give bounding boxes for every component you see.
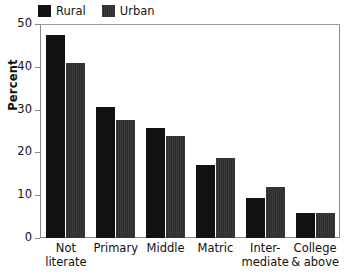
bar-rural-0 [46,35,65,238]
legend-label-urban: Urban [120,5,155,17]
y-tick-50: 50 [0,24,40,25]
y-tick-label-20: 20 [17,145,32,158]
bar-urban-4 [266,187,285,238]
y-tick-20: 20 [0,152,40,153]
bar-rural-4 [246,198,265,238]
y-tick-mark-30 [35,110,40,111]
y-tick-0: 0 [0,238,40,239]
y-tick-mark-50 [35,24,40,25]
bar-rural-5 [296,213,315,238]
bar-rural-3 [196,165,215,238]
x-axis-label-5: College & above [284,241,346,269]
legend-entry-urban[interactable]: Urban [102,5,155,17]
y-tick-label-50: 50 [17,17,32,30]
legend-swatch-urban [102,5,115,17]
plot-area [41,24,340,238]
bar-urban-1 [116,120,135,238]
legend-swatch-rural [38,5,51,17]
bar-urban-0 [66,63,85,238]
y-tick-30: 30 [0,110,40,111]
bar-urban-3 [216,158,235,238]
y-tick-mark-10 [35,195,40,196]
bar-rural-1 [96,107,115,238]
y-tick-label-10: 10 [17,188,32,201]
bar-urban-5 [316,213,335,238]
chart-legend: RuralUrban [38,3,155,19]
y-tick-mark-20 [35,152,40,153]
y-tick-40: 40 [0,67,40,68]
y-tick-10: 10 [0,195,40,196]
legend-entry-rural[interactable]: Rural [38,5,86,17]
bar-rural-2 [146,128,165,238]
y-tick-mark-40 [35,67,40,68]
bar-chart: RuralUrban Percent 01020304050 Not liter… [0,0,346,278]
y-tick-label-30: 30 [17,103,32,116]
bar-urban-2 [166,136,185,238]
y-axis-label: Percent [6,30,20,140]
y-tick-label-0: 0 [25,231,32,244]
y-tick-label-40: 40 [17,60,32,73]
y-tick-mark-0 [35,238,40,239]
legend-label-rural: Rural [56,5,86,17]
